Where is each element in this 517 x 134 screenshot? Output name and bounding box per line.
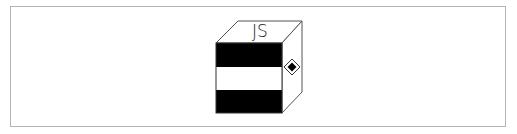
bottom-band <box>216 90 282 113</box>
cube-front-face <box>216 43 282 113</box>
middle-band <box>216 67 282 90</box>
cube-label: JS <box>252 21 268 41</box>
top-band <box>216 43 282 67</box>
js-cube-diagram: JS <box>0 0 517 134</box>
